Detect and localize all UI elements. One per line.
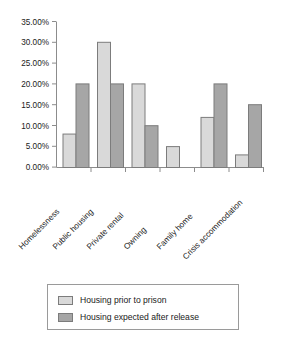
bar-prior-homelessness	[63, 134, 76, 167]
bar-after-private-rental	[145, 126, 158, 168]
bar-prior-crisis-accommodation	[236, 155, 249, 168]
bar-after-homelessness	[76, 84, 89, 168]
y-tick-label: 35.00%	[21, 18, 49, 27]
bar-prior-family-home	[201, 117, 214, 167]
legend-swatch-prior-icon	[58, 296, 73, 305]
bar-after-crisis-accommodation	[249, 105, 262, 168]
x-axis-tick-marks	[91, 168, 264, 173]
y-tick-label: 10.00%	[21, 122, 49, 131]
x-tick-label: Family home	[155, 212, 195, 252]
legend-label-after: Housing expected after release	[80, 312, 199, 322]
y-tick-label: 30.00%	[21, 38, 49, 47]
bar-prior-private-rental	[132, 84, 145, 168]
legend-swatch-after-icon	[58, 313, 73, 322]
chart-legend: Housing prior to prison Housing expected…	[47, 284, 239, 330]
x-axis-category-labels: Homelessness Public housing Private rent…	[17, 198, 245, 262]
bar-after-public-housing	[111, 84, 124, 168]
y-tick-label: 20.00%	[21, 80, 49, 89]
x-tick-label: Crisis accommodation	[181, 198, 245, 262]
bar-chart: 35.00% 30.00% 25.00% 20.00% 15.00% 10.00…	[0, 0, 282, 347]
legend-item-after: Housing expected after release	[58, 309, 238, 325]
bar-after-family-home	[214, 84, 227, 168]
y-tick-label: 5.00%	[26, 142, 49, 151]
bar-prior-public-housing	[98, 42, 111, 167]
bar-prior-owning	[167, 147, 180, 168]
x-tick-label: Owning	[122, 225, 148, 251]
y-axis-ticks: 35.00% 30.00% 25.00% 20.00% 15.00% 10.00…	[21, 18, 49, 173]
y-tick-label: 25.00%	[21, 59, 49, 68]
y-tick-label: 0.00%	[26, 163, 49, 172]
y-tick-label: 15.00%	[21, 101, 49, 110]
y-axis-tick-marks	[52, 22, 56, 168]
bars-group	[63, 42, 262, 167]
legend-item-prior: Housing prior to prison	[58, 292, 238, 308]
legend-label-prior: Housing prior to prison	[80, 295, 166, 305]
